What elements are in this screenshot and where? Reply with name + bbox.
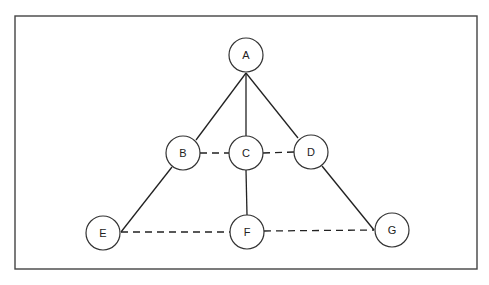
edge-c-f — [246, 170, 247, 215]
node-a: A — [229, 38, 263, 72]
node-label: G — [388, 224, 397, 236]
edge-a-d — [246, 73, 298, 138]
node-g: G — [375, 213, 409, 247]
nodes-layer: ABCDEFG — [86, 38, 409, 250]
node-d: D — [294, 135, 328, 169]
edge-d-g — [322, 166, 374, 230]
edge-a-b — [196, 73, 246, 140]
node-f: F — [230, 215, 264, 249]
node-label: B — [179, 147, 186, 159]
node-e: E — [86, 216, 120, 250]
node-label: E — [99, 227, 106, 239]
node-c: C — [229, 136, 263, 170]
edge-f-g — [264, 230, 374, 231]
node-label: F — [244, 226, 251, 238]
node-label: C — [242, 147, 250, 159]
graph-diagram: ABCDEFG — [0, 0, 489, 285]
node-label: A — [242, 49, 250, 61]
node-label: D — [307, 146, 315, 158]
edge-c-d — [263, 152, 294, 153]
edge-b-e — [121, 167, 172, 232]
node-b: B — [166, 136, 200, 170]
